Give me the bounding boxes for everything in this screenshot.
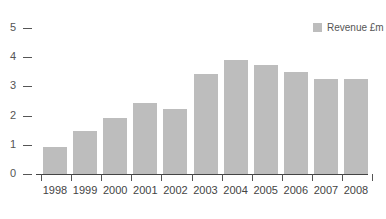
y-tick-label: 5	[2, 21, 16, 33]
x-tick-label: 1999	[68, 184, 102, 196]
bar-2008	[344, 79, 368, 174]
y-tick-mark	[23, 86, 32, 87]
x-tick-label: 2003	[189, 184, 223, 196]
x-tick-label: 2005	[249, 184, 283, 196]
legend-swatch	[313, 23, 322, 32]
x-tick-mark	[131, 174, 132, 181]
bar-2007	[314, 79, 338, 174]
y-tick-mark	[23, 57, 32, 58]
x-tick-mark	[192, 174, 193, 181]
x-tick-label: 2001	[128, 184, 162, 196]
y-tick-label: 3	[2, 79, 16, 91]
revenue-bar-chart: 012345 199819992000200120022003200420052…	[0, 0, 386, 219]
y-tick-label: 1	[2, 138, 16, 150]
x-tick-mark	[312, 174, 313, 181]
x-tick-label: 2007	[309, 184, 343, 196]
bar-2004	[224, 60, 248, 174]
x-tick-label: 2002	[158, 184, 192, 196]
x-tick-mark	[222, 174, 223, 181]
bar-2000	[103, 118, 127, 174]
x-tick-mark	[252, 174, 253, 181]
x-tick-mark	[282, 174, 283, 181]
bar-1999	[73, 131, 97, 174]
bar-2002	[163, 109, 187, 174]
x-tick-mark	[161, 174, 162, 181]
bar-2006	[284, 72, 308, 174]
x-tick-mark	[71, 174, 72, 181]
x-axis-line	[36, 174, 368, 175]
x-tick-label: 2008	[339, 184, 373, 196]
x-tick-label: 2000	[98, 184, 132, 196]
bar-2005	[254, 65, 278, 174]
legend-label: Revenue £m	[327, 22, 384, 33]
x-tick-mark	[342, 174, 343, 181]
y-tick-mark	[23, 174, 32, 175]
x-tick-mark	[372, 174, 373, 181]
y-tick-mark	[23, 28, 32, 29]
x-tick-label: 1998	[38, 184, 72, 196]
y-tick-label: 2	[2, 109, 16, 121]
bar-2001	[133, 103, 157, 174]
y-tick-mark	[23, 145, 32, 146]
y-tick-mark	[23, 116, 32, 117]
x-tick-label: 2004	[219, 184, 253, 196]
legend: Revenue £m	[313, 22, 384, 33]
x-tick-mark	[41, 174, 42, 181]
y-tick-label: 0	[2, 167, 16, 179]
x-tick-mark	[101, 174, 102, 181]
bar-1998	[43, 147, 67, 174]
y-tick-label: 4	[2, 50, 16, 62]
bar-2003	[194, 74, 218, 174]
x-tick-label: 2006	[279, 184, 313, 196]
